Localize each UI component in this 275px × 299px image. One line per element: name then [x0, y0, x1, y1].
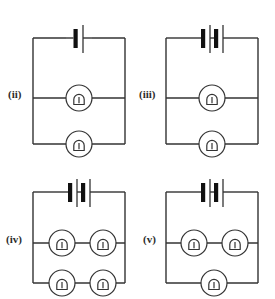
bulb-middle-left — [49, 230, 75, 256]
circuit-figure: (ii) (iii) (iv) (v) — [0, 0, 275, 299]
circuit-ii-battery — [66, 25, 92, 53]
circuit-iii — [166, 25, 258, 157]
circuit-diagram-canvas — [0, 0, 275, 299]
bulb-middle-right — [90, 230, 116, 256]
bulb-middle — [199, 85, 225, 111]
circuit-iv-battery — [63, 179, 97, 207]
bulb-middle-right — [222, 230, 248, 256]
bulb-middle — [66, 85, 92, 111]
circuit-label-iv: (iv) — [6, 234, 22, 245]
circuit-label-ii: (ii) — [8, 89, 21, 100]
circuit-v-battery — [196, 179, 230, 207]
circuit-v — [166, 179, 258, 296]
bulb-bottom-left — [49, 270, 75, 296]
bulb-bottom — [199, 131, 225, 157]
bulb-middle-left — [181, 230, 207, 256]
circuit-iv — [33, 179, 125, 296]
bulb-bottom-center — [201, 270, 227, 296]
circuit-ii — [33, 25, 125, 157]
circuit-iii-battery — [196, 25, 230, 53]
bulb-bottom — [66, 131, 92, 157]
circuit-label-v: (v) — [143, 234, 156, 245]
bulb-bottom-right — [90, 270, 116, 296]
circuit-label-iii: (iii) — [139, 89, 156, 100]
